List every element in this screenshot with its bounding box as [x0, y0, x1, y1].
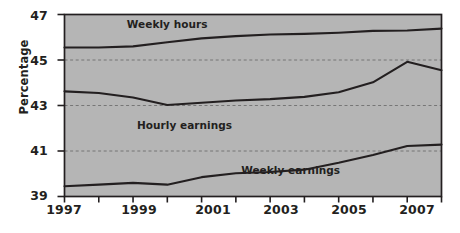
- series-annotation-hourly-earnings: Hourly earnings: [137, 119, 232, 131]
- y-tick-label-39: 39: [22, 188, 48, 203]
- line-chart: Percentage 47 45 43 41 39 1997 1999 2001…: [0, 0, 460, 233]
- x-tick-label-1997: 1997: [42, 202, 86, 217]
- y-tick-label-43: 43: [22, 98, 48, 113]
- series-annotation-weekly-earnings: Weekly earnings: [241, 164, 340, 176]
- x-tick-label-1999: 1999: [117, 202, 161, 217]
- y-tick-label-41: 41: [22, 143, 48, 158]
- y-axis-title: Percentage: [17, 17, 31, 137]
- x-tick-label-2007: 2007: [395, 202, 439, 217]
- x-tick-label-2001: 2001: [191, 202, 235, 217]
- y-tick-label-45: 45: [22, 53, 48, 68]
- plot-area: [0, 0, 460, 233]
- x-tick-label-2005: 2005: [327, 202, 371, 217]
- x-tick-label-2003: 2003: [259, 202, 303, 217]
- series-annotation-weekly-hours: Weekly hours: [127, 18, 208, 30]
- y-tick-label-47: 47: [22, 8, 48, 23]
